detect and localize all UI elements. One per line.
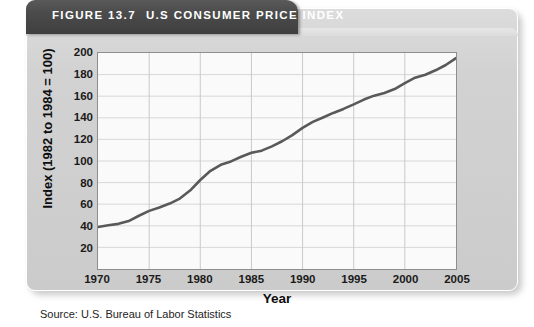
figure-title: FIGURE 13.7U.S CONSUMER PRICE INDEX	[52, 9, 344, 21]
x-tick-label: 1980	[177, 274, 223, 286]
x-tick-label: 2000	[383, 274, 429, 286]
x-tick-label: 1985	[228, 274, 274, 286]
y-tick-label: 160	[47, 91, 93, 103]
x-tick-label: 1975	[125, 274, 171, 286]
source-note: Source: U.S. Bureau of Labor Statistics	[40, 308, 231, 320]
grid-lines	[98, 75, 456, 248]
plot-area	[97, 52, 457, 270]
figure-title-text: U.S CONSUMER PRICE INDEX	[146, 9, 345, 21]
y-tick-label: 80	[47, 178, 93, 190]
y-tick-label: 200	[47, 47, 93, 59]
y-tick-label: 180	[47, 69, 93, 81]
y-tick-label: 140	[47, 112, 93, 124]
cpi-line	[98, 58, 456, 227]
y-tick-label: 40	[47, 221, 93, 233]
x-axis-ticks: 1970 1975 1980 1985 1990 1995 2000 2005	[97, 274, 457, 290]
chart-svg	[98, 53, 456, 269]
y-tick-label: 20	[47, 243, 93, 255]
x-tick-label: 1970	[74, 274, 120, 286]
figure-number: FIGURE 13.7	[52, 9, 136, 21]
x-tick-label: 1995	[331, 274, 377, 286]
y-tick-label: 100	[47, 156, 93, 168]
y-tick-label: 120	[47, 134, 93, 146]
figure-container: FIGURE 13.7U.S CONSUMER PRICE INDEX Inde…	[0, 0, 534, 327]
x-tick-label: 1990	[280, 274, 326, 286]
y-axis-ticks: 200 180 160 140 120 100 80 60 40 20	[43, 52, 93, 270]
x-axis-title: Year	[97, 291, 457, 306]
x-tick-label: 2005	[434, 274, 480, 286]
y-tick-label: 60	[47, 199, 93, 211]
